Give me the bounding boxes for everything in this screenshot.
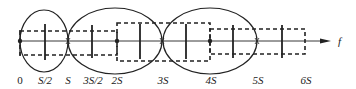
tick-label: 4S <box>206 74 218 86</box>
sampling-spectrum-diagram: f 0 S/2 S 3S/2 2S 3S 4S 5S 6S <box>0 0 356 89</box>
axis-arrow-icon <box>320 39 331 44</box>
tick-label: S <box>65 74 71 86</box>
tick-label: 5S <box>253 74 265 86</box>
tick-label: 3S <box>157 74 170 86</box>
axis-label-f: f <box>338 35 343 47</box>
tick-label: 3S/2 <box>82 74 103 86</box>
tick-labels: 0 S/2 S 3S/2 2S 3S 4S 5S 6S <box>17 74 312 86</box>
tick-label: S/2 <box>38 74 53 86</box>
tick-label: 2S <box>112 74 124 86</box>
tick-label: 0 <box>17 74 23 86</box>
tick-label: 6S <box>301 74 313 86</box>
